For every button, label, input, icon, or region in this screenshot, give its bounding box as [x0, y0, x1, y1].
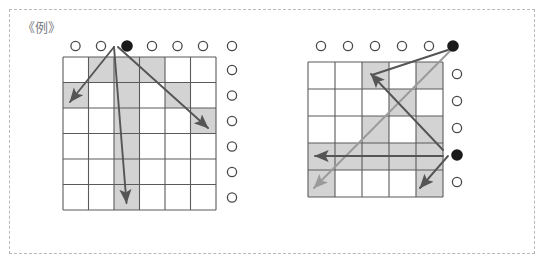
open-dot[interactable]	[173, 41, 182, 50]
open-dot[interactable]	[71, 41, 80, 50]
left-panel-grid	[63, 57, 216, 210]
open-dot[interactable]	[452, 96, 461, 105]
open-dot[interactable]	[424, 41, 433, 50]
filled-dot[interactable]	[447, 40, 459, 52]
filled-dot[interactable]	[121, 40, 133, 52]
open-dot[interactable]	[452, 69, 461, 78]
shaded-cell	[416, 62, 443, 89]
right-panel-top-dots	[316, 40, 458, 52]
open-dot[interactable]	[96, 41, 105, 50]
open-dot[interactable]	[227, 142, 236, 151]
open-dot[interactable]	[452, 177, 461, 186]
open-dot[interactable]	[227, 41, 236, 50]
open-dot[interactable]	[147, 41, 156, 50]
open-dot[interactable]	[227, 91, 236, 100]
open-dot[interactable]	[343, 41, 352, 50]
shaded-cell	[114, 57, 140, 83]
shaded-cell	[308, 170, 335, 197]
shaded-cell	[114, 159, 140, 185]
open-dot[interactable]	[227, 65, 236, 74]
open-dot[interactable]	[227, 116, 236, 125]
open-dot[interactable]	[397, 41, 406, 50]
shaded-cell	[389, 89, 416, 116]
shaded-cell	[114, 134, 140, 160]
shaded-cell	[416, 116, 443, 143]
open-dot[interactable]	[198, 41, 207, 50]
left-panel-top-dots	[71, 40, 237, 52]
shaded-cell	[362, 116, 389, 143]
open-dot[interactable]	[227, 167, 236, 176]
shaded-cell	[191, 108, 217, 134]
left-panel-right-dots	[227, 65, 236, 202]
right-panel-right-dots	[451, 69, 463, 186]
shaded-cell	[89, 57, 115, 83]
open-dot[interactable]	[316, 41, 325, 50]
open-dot[interactable]	[370, 41, 379, 50]
figure-root: 《例》	[0, 0, 545, 265]
open-dot[interactable]	[452, 123, 461, 132]
left-panel	[63, 40, 237, 210]
shaded-cell	[416, 170, 443, 197]
shaded-cell	[165, 83, 191, 109]
shaded-cell	[362, 62, 389, 89]
open-dot[interactable]	[227, 193, 236, 202]
diagram-canvas	[0, 0, 545, 265]
right-panel	[308, 40, 463, 197]
shaded-cell	[114, 108, 140, 134]
filled-dot[interactable]	[451, 149, 463, 161]
